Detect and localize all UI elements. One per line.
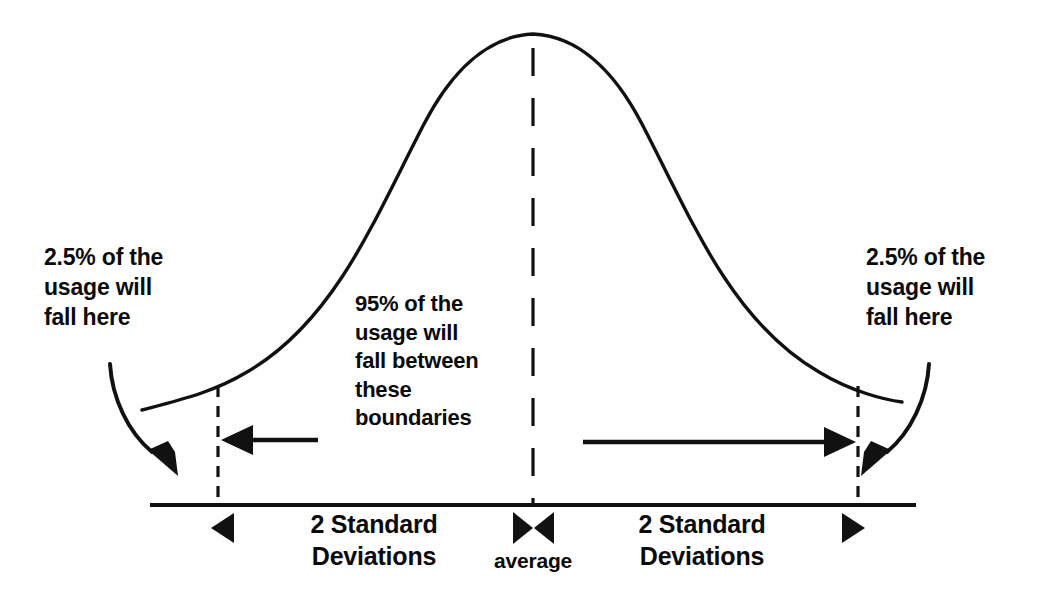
left-tail-callout-arrow — [110, 364, 178, 476]
average-bowtie-marker — [513, 512, 554, 544]
average-label: average — [483, 547, 583, 574]
left-span-arrow — [221, 425, 318, 455]
left-standard-deviations-label: 2 Standard Deviations — [284, 508, 464, 572]
right-boundary-triangle-marker — [842, 513, 865, 543]
bell-curve-path — [142, 34, 902, 410]
right-tail-callout-arrow — [861, 364, 929, 476]
left-boundary-triangle-marker — [211, 513, 234, 543]
right-standard-deviations-label: 2 Standard Deviations — [612, 508, 792, 572]
right-tail-annotation: 2.5% of the usage will fall here — [866, 243, 985, 333]
left-tail-annotation: 2.5% of the usage will fall here — [44, 243, 163, 333]
bell-curve-diagram: 2.5% of the usage will fall here 2.5% of… — [0, 0, 1038, 597]
right-span-arrow — [583, 427, 856, 457]
center-region-annotation: 95% of the usage will fall between these… — [355, 290, 479, 433]
